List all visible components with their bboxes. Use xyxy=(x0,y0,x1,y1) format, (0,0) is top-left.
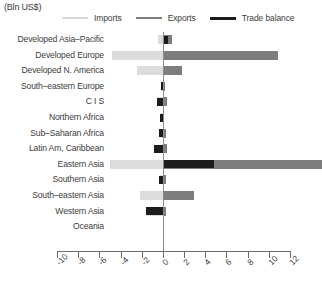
chart-row: South–eastern Europe xyxy=(0,79,322,95)
bar-exports xyxy=(163,66,182,75)
category-label: South–eastern Europe xyxy=(0,79,104,95)
chart-legend: Imports Exports Trade balance xyxy=(62,13,309,23)
legend-swatch-trade-balance-icon xyxy=(210,17,236,20)
category-label: Southern Asia xyxy=(0,172,104,188)
plot-area: Developed Asia–PacificDeveloped EuropeDe… xyxy=(0,32,322,250)
chart-row: Western Asia xyxy=(0,204,322,220)
chart-row: Northern Africa xyxy=(0,110,322,126)
bar-trade-balance xyxy=(146,207,163,215)
trade-bar-chart: (Bln US$) Imports Exports Trade balance … xyxy=(0,0,322,283)
legend-item-imports: Imports xyxy=(62,13,122,23)
bar-exports xyxy=(163,191,194,200)
x-axis-tick-label: 0 xyxy=(160,257,170,267)
category-label: Sub–Saharan Africa xyxy=(0,126,104,142)
category-label: Latin Am, Caribbean xyxy=(0,141,104,157)
x-axis-tick-label: -8 xyxy=(75,255,87,267)
chart-row: South–eastern Asia xyxy=(0,188,322,204)
chart-row: Oceania xyxy=(0,219,322,235)
chart-row: Developed N. America xyxy=(0,63,322,79)
category-label: Western Asia xyxy=(0,204,104,220)
x-axis-tick-label: 6 xyxy=(223,257,233,267)
x-axis-tick-label: -6 xyxy=(96,255,108,267)
chart-row: Eastern Asia xyxy=(0,157,322,173)
category-label: Oceania xyxy=(0,219,104,235)
chart-row: C I S xyxy=(0,94,322,110)
legend-swatch-exports-icon xyxy=(136,17,162,19)
category-label: South–eastern Asia xyxy=(0,188,104,204)
x-axis-tick-label: 8 xyxy=(245,257,255,267)
bar-imports xyxy=(110,160,163,169)
legend-item-exports: Exports xyxy=(136,13,196,23)
bar-imports xyxy=(112,51,163,60)
bar-trade-balance xyxy=(154,145,163,153)
category-label: C I S xyxy=(0,94,104,110)
bar-imports xyxy=(140,191,163,200)
category-label: Developed N. America xyxy=(0,63,104,79)
legend-label-exports: Exports xyxy=(168,13,196,23)
legend-label-imports: Imports xyxy=(94,13,122,23)
category-label: Developed Asia–Pacific xyxy=(0,32,104,48)
x-axis-tick-label: 2 xyxy=(181,257,191,267)
chart-row: Developed Asia–Pacific xyxy=(0,32,322,48)
chart-row: Sub–Saharan Africa xyxy=(0,126,322,142)
units-label: (Bln US$) xyxy=(4,2,41,12)
chart-row: Developed Europe xyxy=(0,48,322,64)
bar-trade-balance xyxy=(163,160,214,168)
bar-imports xyxy=(137,66,162,75)
legend-label-trade-balance: Trade balance xyxy=(242,13,295,23)
category-label: Eastern Asia xyxy=(0,157,104,173)
category-label: Northern Africa xyxy=(0,110,104,126)
x-axis-tick-label: -4 xyxy=(118,255,130,267)
zero-axis-line xyxy=(163,32,164,251)
legend-swatch-imports-icon xyxy=(62,17,88,19)
category-label: Developed Europe xyxy=(0,48,104,64)
chart-row: Southern Asia xyxy=(0,172,322,188)
x-axis-line xyxy=(57,251,290,252)
chart-row: Latin Am, Caribbean xyxy=(0,141,322,157)
x-axis: -10-8-6-4-2024681012 xyxy=(0,251,322,283)
legend-item-trade-balance: Trade balance xyxy=(210,13,295,23)
bar-exports xyxy=(163,51,278,60)
x-axis-tick-label: 4 xyxy=(202,257,212,267)
x-axis-tick-label: -2 xyxy=(139,255,151,267)
